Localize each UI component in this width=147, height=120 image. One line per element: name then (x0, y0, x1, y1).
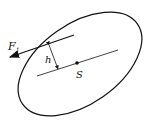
diagram-canvas: F1 h S (0, 0, 147, 120)
center-point (75, 61, 79, 65)
center-label: S (76, 69, 83, 80)
rigid-body-ellipse (0, 0, 147, 120)
force-label: F1 (7, 40, 19, 53)
force-line (10, 35, 74, 57)
distance-label: h (45, 54, 51, 65)
